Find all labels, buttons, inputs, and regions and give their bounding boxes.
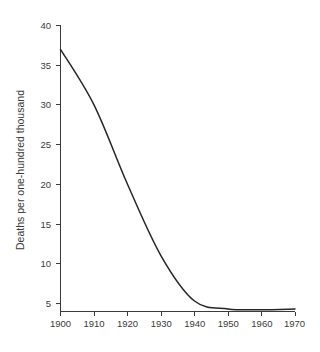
- x-tick-label-1900: 1900: [50, 318, 71, 329]
- x-tick-label-1910: 1910: [84, 318, 105, 329]
- y-tick-label-5: 5: [46, 298, 51, 309]
- y-tick-label-15: 15: [40, 219, 51, 230]
- y-axis-title: Deaths per one-hundred thousand: [14, 90, 26, 250]
- y-tick-label-40: 40: [40, 20, 51, 31]
- x-tick-label-1960: 1960: [251, 318, 272, 329]
- x-tick-label-1950: 1950: [218, 318, 239, 329]
- x-tick-label-1920: 1920: [117, 318, 138, 329]
- x-tick-label-1970: 1970: [284, 318, 305, 329]
- y-tick-label-35: 35: [40, 60, 51, 71]
- y-tick-label-20: 20: [40, 179, 51, 190]
- x-tick-label-1930: 1930: [151, 318, 172, 329]
- y-tick-label-10: 10: [40, 258, 51, 269]
- line-chart: 40 35 30 25 20 15 10 5 1900 1910 1920 19…: [0, 0, 320, 352]
- y-tick-label-30: 30: [40, 99, 51, 110]
- y-tick-label-25: 25: [40, 139, 51, 150]
- x-tick-label-1940: 1940: [184, 318, 205, 329]
- chart-container: 40 35 30 25 20 15 10 5 1900 1910 1920 19…: [0, 0, 320, 352]
